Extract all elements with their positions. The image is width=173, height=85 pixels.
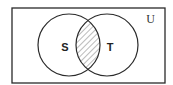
set-s-label: S (61, 41, 68, 53)
universe-label: U (146, 12, 155, 26)
venn-diagram: S T U (0, 0, 173, 85)
set-t-label: T (107, 41, 114, 53)
